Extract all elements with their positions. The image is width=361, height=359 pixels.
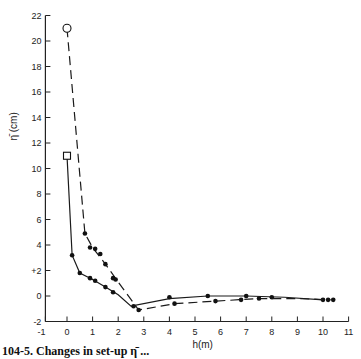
x-tick-label: 3 [141, 327, 146, 337]
data-point [78, 271, 83, 276]
data-point [167, 295, 172, 300]
y-tick-label: 16 [31, 87, 41, 97]
data-point [98, 252, 103, 257]
x-tick-label: 7 [244, 327, 249, 337]
data-point [111, 290, 116, 295]
y-tick-label: 20 [31, 36, 41, 46]
data-point [326, 298, 331, 303]
x-tick-label: 9 [295, 327, 300, 337]
y-tick-label: 4 [36, 240, 41, 250]
plot-series [63, 24, 336, 312]
y-tick-label: 0 [36, 291, 41, 301]
y-tick-label: 14 [31, 113, 41, 123]
y-tick-label: 12 [31, 138, 41, 148]
data-point [103, 285, 108, 290]
x-tick-label: 10 [318, 327, 328, 337]
data-point [103, 262, 108, 267]
y-tick-label: 10 [31, 164, 41, 174]
y-tick-label: 6 [36, 215, 41, 225]
dashed-curve-line [67, 28, 331, 310]
y-tick-label: 8 [36, 189, 41, 199]
data-point [239, 298, 244, 303]
data-point [88, 245, 93, 250]
y-tick-label: +2 [31, 266, 41, 276]
y-tick-label: -2 [33, 317, 41, 327]
data-point [113, 277, 118, 282]
x-tick-label: 11 [344, 327, 353, 337]
x-tick-label: -1 [37, 327, 45, 337]
y-axis-label: η̄ (cm) [8, 112, 19, 140]
data-point [93, 247, 98, 252]
open-square-marker [64, 152, 71, 159]
open-circle-marker [63, 24, 71, 32]
x-tick-label: 8 [269, 327, 274, 337]
data-point [88, 276, 93, 281]
x-axis-label: h(m) [192, 339, 213, 350]
data-point [93, 278, 98, 283]
data-point [172, 301, 177, 306]
x-tick-label: 4 [167, 327, 172, 337]
data-point [83, 231, 88, 236]
x-tick-label: 0 [64, 327, 69, 337]
solid-curve-line [67, 156, 323, 306]
figure-caption: 104-5. Changes in set-up η̄ ... [2, 344, 149, 359]
x-tick-label: 6 [218, 327, 223, 337]
data-point [136, 308, 141, 313]
data-point [70, 253, 75, 258]
data-point [244, 294, 249, 299]
x-tick-label: 2 [116, 327, 121, 337]
x-tick-label: 5 [192, 327, 197, 337]
data-point [206, 294, 211, 299]
y-tick-label: 22 [31, 11, 41, 21]
data-point [331, 298, 336, 303]
x-tick-label: 1 [90, 327, 95, 337]
data-point [213, 299, 218, 304]
data-point [257, 296, 262, 301]
y-tick-label: 18 [31, 62, 41, 72]
